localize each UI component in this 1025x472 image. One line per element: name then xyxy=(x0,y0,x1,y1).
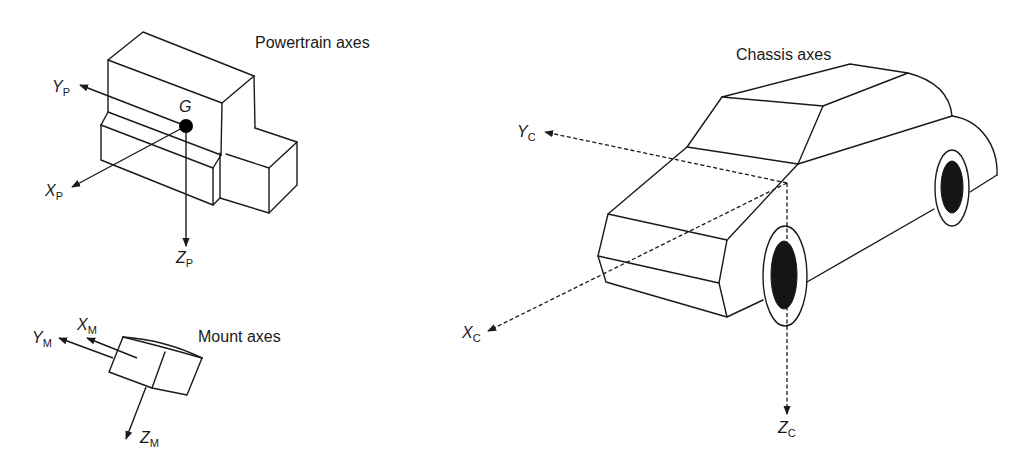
powertrain-group: G YP XP ZP Powertrain axes xyxy=(44,32,370,269)
xp-label: XP xyxy=(44,182,63,202)
rear-wheel xyxy=(935,150,969,226)
powertrain-block xyxy=(101,32,297,213)
xm-axis xyxy=(87,338,137,358)
zp-label: ZP xyxy=(175,249,193,269)
center-of-gravity-dot xyxy=(179,119,193,133)
chassis-caption: Chassis axes xyxy=(736,46,831,63)
zc-label: ZC xyxy=(777,419,796,439)
chassis-group: YC XC ZC Chassis axes xyxy=(461,46,997,439)
mount-group: YM XM ZM Mount axes xyxy=(32,316,281,449)
front-wheel xyxy=(763,226,807,326)
xc-axis xyxy=(488,183,787,331)
g-label: G xyxy=(179,98,191,115)
powertrain-caption: Powertrain axes xyxy=(255,34,370,51)
xc-label: XC xyxy=(461,324,481,344)
yc-label: YC xyxy=(517,123,536,143)
mount-caption: Mount axes xyxy=(198,328,281,345)
ym-axis xyxy=(59,338,113,358)
vehicle-axes-diagram: G YP XP ZP Powertrain axes YM XM ZM Moun… xyxy=(0,0,1025,472)
zm-label: ZM xyxy=(139,429,159,449)
yp-label: YP xyxy=(52,78,70,98)
ym-label: YM xyxy=(32,329,52,349)
xm-label: XM xyxy=(76,316,97,336)
mount-block xyxy=(109,337,202,395)
yc-axis xyxy=(545,132,787,183)
yp-axis xyxy=(80,85,186,126)
